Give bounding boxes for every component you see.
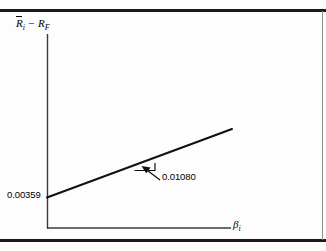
y-axis-label-mean-return: R xyxy=(16,18,23,29)
y-axis-label-minus: − xyxy=(25,17,38,29)
y-axis-label: Ri − RF xyxy=(16,18,50,32)
intercept-value-label: 0.00359 xyxy=(7,190,41,200)
figure-container: Ri − RF βi 0.00359 0.01080 xyxy=(0,0,326,251)
slope-value-label: 0.01080 xyxy=(162,172,196,182)
y-axis-label-riskfree: R xyxy=(38,17,45,29)
x-axis-label-beta-subscript: i xyxy=(238,224,240,233)
x-axis-label: βi xyxy=(233,219,241,233)
plot-area xyxy=(0,0,326,251)
y-axis-label-riskfree-subscript: F xyxy=(45,23,50,32)
security-market-line xyxy=(47,129,232,198)
